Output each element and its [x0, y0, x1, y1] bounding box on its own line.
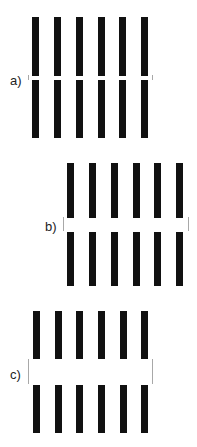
panel-a-top-bar-1: [32, 17, 39, 76]
panel-a-bottom-bar-6: [141, 80, 148, 138]
panel-c-top-bar-5: [120, 311, 127, 359]
panel-c-top-bar-6: [141, 311, 148, 359]
panel-b-top-bar-5: [154, 163, 161, 218]
figure-canvas: a) b) c): [0, 0, 197, 447]
panel-b-top-bar-4: [133, 163, 140, 218]
panel-a-label: a): [10, 74, 22, 87]
panel-a-top-bar-2: [54, 17, 61, 76]
panel-b-top-bar-2: [89, 163, 96, 218]
panel-c-bottom-bar-5: [120, 385, 127, 433]
panel-b-right-tick: [188, 217, 189, 231]
panel-a-top-bar-6: [141, 17, 148, 76]
panel-c-left-tick: [28, 359, 29, 384]
panel-c-bottom-bar-4: [98, 385, 105, 433]
panel-b-top-bar-3: [111, 163, 118, 218]
panel-b-bottom-bar-3: [111, 232, 118, 286]
panel-a-bottom-bar-1: [32, 80, 39, 138]
panel-a-top-bar-3: [76, 17, 83, 76]
panel-b-top-bar-6: [176, 163, 183, 218]
panel-a-right-tick: [152, 75, 153, 80]
panel-a-top-bar-5: [119, 17, 126, 76]
panel-b-top-bar-1: [67, 163, 74, 218]
panel-c-bottom-bar-3: [76, 385, 83, 433]
panel-a-left-tick: [28, 75, 29, 80]
panel-a-bottom-bar-5: [119, 80, 126, 138]
panel-c-bottom-bar-2: [55, 385, 62, 433]
panel-b-label: b): [45, 220, 57, 233]
panel-a-bottom-bar-2: [54, 80, 61, 138]
panel-c-right-tick: [152, 359, 153, 384]
panel-b-bottom-bar-2: [89, 232, 96, 286]
panel-a-bottom-bar-3: [76, 80, 83, 138]
panel-b-bottom-bar-6: [176, 232, 183, 286]
panel-c-top-bar-3: [76, 311, 83, 359]
panel-b-bottom-bar-5: [154, 232, 161, 286]
panel-b-bottom-bar-4: [133, 232, 140, 286]
panel-c-label: c): [10, 368, 21, 381]
panel-a-top-bar-4: [98, 17, 105, 76]
panel-c-top-bar-2: [55, 311, 62, 359]
panel-c-top-bar-1: [33, 311, 40, 359]
panel-c-bottom-bar-6: [141, 385, 148, 433]
panel-c-top-bar-4: [98, 311, 105, 359]
panel-c-bottom-bar-1: [33, 385, 40, 433]
panel-b-bottom-bar-1: [67, 232, 74, 286]
panel-a-bottom-bar-4: [98, 80, 105, 138]
panel-b-left-tick: [63, 217, 64, 231]
